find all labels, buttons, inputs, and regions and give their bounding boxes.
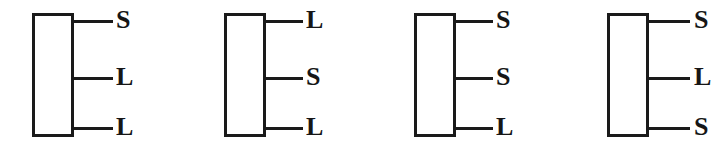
figure-4-terminal-2-label: L: [694, 64, 711, 90]
figure-4-block: [607, 13, 649, 137]
figure-4-terminal-3-lead-line: [649, 127, 690, 130]
figure-4: SLS: [0, 0, 727, 148]
figure-4-terminal-1-label: S: [694, 7, 708, 33]
diagram-canvas: SLLLSLSSLSLS: [0, 0, 727, 148]
figure-4-terminal-2-lead-line: [649, 77, 690, 80]
figure-4-terminal-3-label: S: [694, 114, 708, 140]
figure-4-terminal-1-lead-line: [649, 20, 690, 23]
